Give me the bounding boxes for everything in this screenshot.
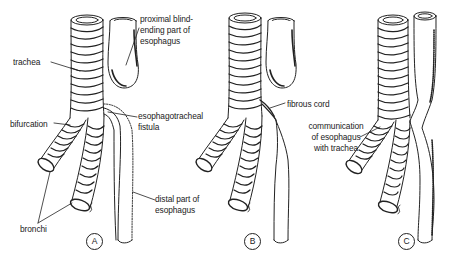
panel-b-bronchi — [194, 116, 262, 213]
diagram-drawing — [0, 0, 461, 257]
panel-letter-b: B — [244, 233, 261, 250]
panel-letter-c: C — [398, 233, 415, 250]
panel-b-proximal-esophagus — [266, 18, 296, 89]
label-proximal-blind-esophagus: proximal blind- ending part of esophagus — [140, 13, 193, 46]
label-esophagotracheal-fistula: esophagotracheal fistula — [138, 110, 203, 132]
panel-b-trachea — [228, 13, 262, 118]
label-trachea: trachea — [13, 56, 40, 67]
panel-a-trachea — [70, 15, 104, 118]
diagram-stage: trachea proximal blind- ending part of e… — [0, 0, 461, 257]
label-bifurcation: bifurcation — [10, 118, 48, 129]
panel-b-drawing — [194, 13, 296, 243]
panel-letter-a: A — [86, 233, 103, 250]
panel-a-bronchi — [36, 116, 104, 213]
panel-a-proximal-esophagus — [108, 18, 138, 89]
label-fibrous-cord: fibrous cord — [287, 98, 330, 109]
panel-b-leaders — [270, 103, 285, 108]
panel-b-fibrous-cord-and-distal — [260, 100, 289, 243]
label-bronchi: bronchi — [20, 223, 47, 234]
panel-a-distal-esophagus — [104, 104, 133, 243]
label-communication-esophagus-trachea: communication of esophagus with trachea — [307, 120, 365, 153]
label-distal-esophagus: distal part of esophagus — [155, 193, 199, 215]
panel-c-esophagus — [410, 12, 436, 243]
panel-c-trachea — [378, 15, 410, 120]
